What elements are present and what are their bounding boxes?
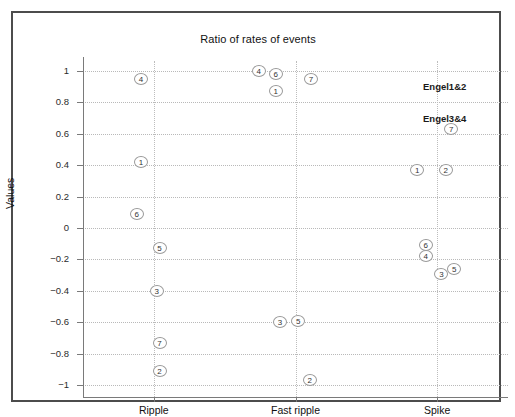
y-axis-line <box>83 57 84 397</box>
x-tick-label-spike: Spike <box>424 404 450 416</box>
data-point-marker: 6 <box>130 208 144 220</box>
gridline-vertical <box>154 61 155 401</box>
data-point-marker: 2 <box>153 365 167 377</box>
data-point-marker: 5 <box>291 315 305 327</box>
screenshot-root: Ratio of rates of events Values 10.80.60… <box>0 0 515 417</box>
y-tick-mark <box>77 259 83 260</box>
x-tick-mark <box>154 397 155 402</box>
y-tick-label: −0.4 <box>27 286 69 296</box>
x-tick-label-ripple: Ripple <box>139 404 169 416</box>
y-axis-title: Values <box>4 178 16 209</box>
y-tick-label: 0.8 <box>27 97 69 107</box>
y-tick-mark <box>77 165 83 166</box>
data-point-marker: 3 <box>150 285 164 297</box>
data-point-marker: 5 <box>447 263 461 275</box>
y-tick-mark <box>77 228 83 229</box>
data-point-marker: 6 <box>269 68 283 80</box>
x-tick-label-fast-ripple: Fast ripple <box>271 404 320 416</box>
data-point-marker: 2 <box>303 374 317 386</box>
y-tick-mark <box>77 71 83 72</box>
data-point-marker: 7 <box>153 337 167 349</box>
gridline-vertical <box>296 61 297 401</box>
y-tick-mark <box>77 385 83 386</box>
y-tick-label: 0.2 <box>27 192 69 202</box>
y-tick-label: −0.2 <box>27 254 69 264</box>
figure-frame: Ratio of rates of events Values 10.80.60… <box>11 11 501 402</box>
y-tick-label: 0.4 <box>27 160 69 170</box>
y-tick-label: 0.6 <box>27 129 69 139</box>
y-tick-mark <box>77 197 83 198</box>
y-tick-label: 1 <box>27 66 69 76</box>
gridline-vertical <box>437 61 438 401</box>
y-tick-mark <box>77 322 83 323</box>
y-tick-label: −0.8 <box>27 349 69 359</box>
y-tick-mark <box>77 354 83 355</box>
data-point-marker: 2 <box>439 164 453 176</box>
y-tick-mark <box>77 291 83 292</box>
plot-area <box>83 61 508 401</box>
data-point-marker: 4 <box>252 65 266 77</box>
y-tick-label: −1 <box>27 380 69 390</box>
legend-label-2: Engel3&4 <box>423 113 466 124</box>
data-point-marker: 7 <box>304 73 318 85</box>
y-tick-mark <box>77 134 83 135</box>
y-tick-mark <box>77 102 83 103</box>
data-point-marker: 4 <box>134 73 148 85</box>
chart-title: Ratio of rates of events <box>13 33 503 45</box>
y-tick-label: −0.6 <box>27 317 69 327</box>
legend-label-1: Engel1&2 <box>423 81 466 92</box>
y-tick-label: 0 <box>27 223 69 233</box>
data-point-marker: 5 <box>153 242 167 254</box>
x-tick-mark <box>437 397 438 402</box>
x-tick-mark <box>296 397 297 402</box>
